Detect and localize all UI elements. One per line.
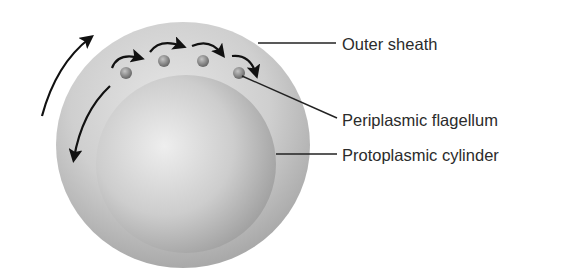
protoplasmic-cylinder-label: Protoplasmic cylinder [342,147,499,164]
spirochete-diagram [0,0,574,275]
outer-sheath-label: Outer sheath [342,36,437,53]
flagellum-dot [197,55,209,67]
flagellum-dot [120,67,132,79]
flagellum-dot [158,55,170,67]
periplasmic-flagellum-label: Periplasmic flagellum [342,112,498,129]
protoplasmic-cylinder [96,75,276,253]
